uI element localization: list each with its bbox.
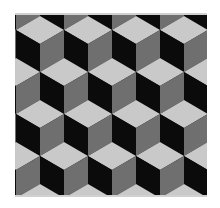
frame-edge — [15, 13, 207, 15]
cube-left-face — [15, 13, 16, 30]
frame-edge — [15, 195, 207, 197]
tumbling-blocks-image — [15, 13, 207, 197]
cube-pattern — [15, 13, 207, 197]
